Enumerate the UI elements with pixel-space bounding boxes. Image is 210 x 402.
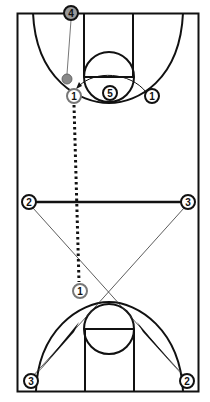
player-1-top: 1 (67, 89, 81, 103)
svg-text:3: 3 (185, 197, 191, 208)
svg-text:2: 2 (184, 376, 190, 387)
svg-text:1: 1 (149, 91, 155, 102)
player-5: 5 (103, 86, 117, 100)
svg-text:1: 1 (77, 286, 83, 297)
svg-text:4: 4 (68, 8, 74, 19)
player-3-mid: 3 (181, 195, 195, 209)
dribble-line (74, 105, 79, 282)
cut-wedge-2 (137, 322, 183, 376)
pass-line-4-to-1 (67, 20, 71, 74)
player-2-bottom: 2 (180, 374, 194, 388)
player-2-mid: 2 (22, 195, 36, 209)
player-3-bottom: 3 (24, 374, 38, 388)
player-1-right: 1 (145, 89, 159, 103)
bottom-half-court (36, 302, 183, 391)
svg-text:1: 1 (71, 91, 77, 102)
player-1-low: 1 (73, 284, 87, 298)
basketball-court-diagram: 4 1 5 1 2 3 1 3 2 (0, 0, 210, 402)
svg-text:3: 3 (28, 376, 34, 387)
player-4: 4 (64, 6, 78, 20)
bottom-three-point-arc (36, 302, 183, 391)
arrowhead-icon (76, 82, 82, 89)
svg-text:5: 5 (107, 88, 113, 99)
basketball-icon (62, 74, 72, 84)
svg-text:2: 2 (26, 197, 32, 208)
